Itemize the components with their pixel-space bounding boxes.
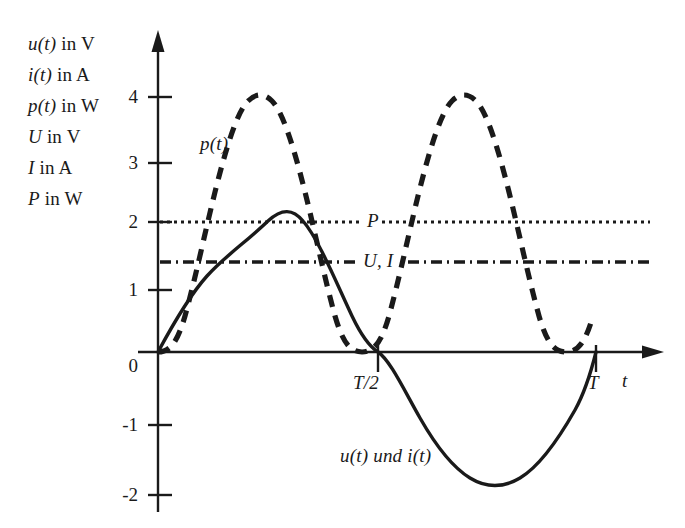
legend-symbol-u: u(t) [28, 33, 56, 54]
legend-symbol-I: I [28, 157, 35, 178]
legend-symbol-P: P [28, 188, 40, 209]
annotation-u-and-i: u(t) und i(t) [340, 445, 431, 467]
x-tick-label-t: T [588, 372, 599, 394]
legend-text-block: u(t) in V i(t) in A p(t) in W U in V I i… [28, 28, 158, 214]
x-tick-label-t-half: T/2 [353, 372, 379, 394]
legend-symbol-U: U [28, 126, 42, 147]
y-tick-label-1: 1 [108, 279, 138, 301]
y-tick-label-2: 2 [108, 211, 138, 233]
annotation-mean-power: P [364, 210, 382, 232]
legend-unit-I: in A [39, 157, 72, 178]
y-tick-label-minus-2: -2 [103, 484, 138, 506]
annotation-rms-values: U, I [360, 250, 396, 272]
x-axis-name-label: t [622, 370, 627, 392]
legend-unit-P: in W [45, 188, 83, 209]
legend-item-U: U in V [28, 121, 158, 152]
y-tick-label-4: 4 [108, 86, 138, 108]
legend-unit-U: in V [47, 126, 81, 147]
legend-item-I: I in A [28, 152, 158, 183]
x-axis [138, 346, 664, 359]
y-tick-label-3: 3 [108, 152, 138, 174]
legend-symbol-i: i(t) [28, 64, 52, 85]
legend-item-i: i(t) in A [28, 59, 158, 90]
legend-item-p: p(t) in W [28, 90, 158, 121]
y-tick-label-0: 0 [108, 355, 138, 377]
y-tick-label-minus-1: -1 [103, 414, 138, 436]
x-axis-ticks [378, 345, 596, 372]
figure-canvas: u(t) in V i(t) in A p(t) in W U in V I i… [0, 0, 685, 528]
legend-item-P: P in W [28, 183, 158, 214]
legend-unit-u: in V [61, 33, 95, 54]
legend-unit-i: in A [57, 64, 90, 85]
legend-unit-p: in W [61, 95, 99, 116]
annotation-p-of-t: p(t) [200, 133, 228, 155]
legend-symbol-p: p(t) [28, 95, 56, 116]
legend-item-u: u(t) in V [28, 28, 158, 59]
